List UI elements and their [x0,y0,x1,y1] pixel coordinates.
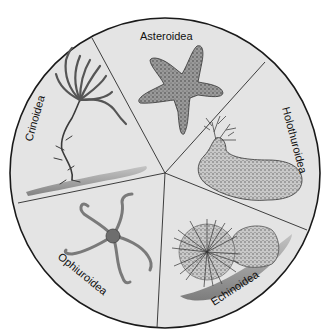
label-asteroidea: Asteroidea [140,30,193,42]
rock-icon [232,226,279,267]
echinoderm-classes-wheel: Asteroidea Holothuroidea Ech [0,0,328,336]
